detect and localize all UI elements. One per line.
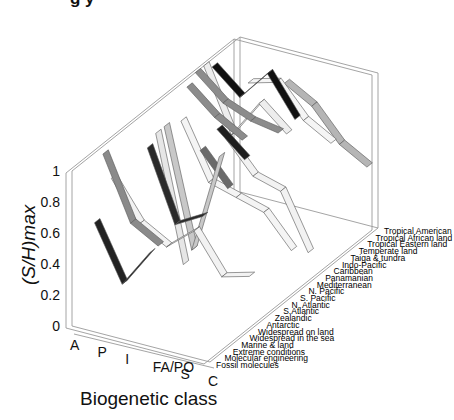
- ribbon-segment: [122, 248, 155, 284]
- z-axis-ticks: 00.20.40.60.81: [41, 163, 61, 334]
- ribbon-segment: [103, 150, 136, 224]
- x-tick-label: C: [208, 373, 218, 389]
- x-axis-label: Biogenetic class: [80, 388, 217, 409]
- ribbon-tropical-african-land: [284, 79, 372, 167]
- ribbons: [95, 62, 373, 285]
- ribbon-segment: [236, 193, 269, 212]
- z-tick-label: 1: [52, 163, 60, 179]
- z-tick-label: 0.2: [41, 287, 61, 303]
- x-tick-label: I: [125, 351, 129, 367]
- back-wall-edge: [240, 37, 378, 228]
- ribbon-segment: [253, 172, 286, 191]
- ribbon-segment: [95, 219, 128, 285]
- y-axis-label: (S/H)max: [18, 203, 39, 285]
- z-tick-label: 0.4: [41, 256, 61, 272]
- ribbon-segment: [339, 140, 372, 167]
- region-tick-label: Tropical American: [384, 226, 452, 236]
- x-tick-label: A: [70, 337, 80, 353]
- axes-box: [66, 37, 378, 368]
- x-tick-label: S: [180, 366, 189, 382]
- ribbon-chart: 00.20.40.60.81 APIFA/POSC Fossil molecul…: [0, 0, 454, 420]
- z-tick-label: 0.6: [41, 225, 61, 241]
- ribbon-segment: [181, 117, 214, 183]
- chart-title-clipped: g y: [70, 0, 95, 8]
- x-tick-label: P: [98, 344, 107, 360]
- ribbon-segment: [222, 272, 255, 277]
- z-tick-label: 0.8: [41, 194, 61, 210]
- ribbon-segment: [194, 227, 227, 277]
- region-axis-ticks: Fossil moleculesMolecular engineeringExt…: [216, 226, 453, 370]
- z-tick-label: 0: [52, 318, 60, 334]
